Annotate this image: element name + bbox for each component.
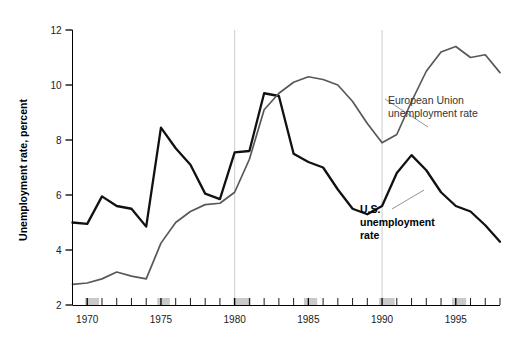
x-tick-label-1975: 1975 — [150, 314, 173, 325]
y-tick-label-10: 10 — [50, 80, 62, 91]
eu-annotation-line-0: European Union — [388, 94, 464, 106]
us-annotation-line-0: U.S. — [360, 203, 381, 215]
x-axis-labels: 197019751980198519901995 — [76, 314, 467, 325]
us-annotation-line-1: unemployment — [360, 216, 435, 228]
y-axis-title: Unemployment rate, percent — [17, 99, 29, 241]
y-tick-label-6: 6 — [56, 190, 62, 201]
x-tick-label-1995: 1995 — [445, 314, 468, 325]
x-tick-label-1980: 1980 — [224, 314, 247, 325]
x-tick-label-1985: 1985 — [297, 314, 320, 325]
y-tick-label-8: 8 — [56, 135, 62, 146]
eu-annotation-line-1: unemployment rate — [388, 107, 478, 119]
y-tick-label-2: 2 — [56, 300, 62, 311]
recession-bands — [85, 298, 466, 305]
recession-band-5 — [452, 298, 466, 305]
y-tick-label-4: 4 — [56, 245, 62, 256]
x-tick-label-1970: 1970 — [76, 314, 99, 325]
vertical-gridlines — [235, 30, 382, 305]
recession-band-3 — [304, 298, 317, 305]
us-annotation-line-2: rate — [360, 229, 379, 241]
x-axis-ticks — [87, 298, 500, 305]
recession-band-1 — [157, 298, 170, 305]
recession-band-2 — [233, 298, 251, 305]
series-line-eu — [73, 47, 501, 285]
series-annotations: European Unionunemployment rateU.S.unemp… — [360, 94, 478, 241]
us-annotation-leader-line — [392, 190, 424, 209]
unemployment-rate-line-chart: Unemployment rate, percent 24681012 1970… — [0, 0, 509, 343]
y-tick-label-12: 12 — [50, 25, 62, 36]
y-axis-ticks: 24681012 — [50, 25, 72, 311]
x-tick-label-1990: 1990 — [371, 314, 394, 325]
chart-container: Unemployment rate, percent 24681012 1970… — [0, 0, 509, 343]
data-series-group — [73, 47, 501, 285]
